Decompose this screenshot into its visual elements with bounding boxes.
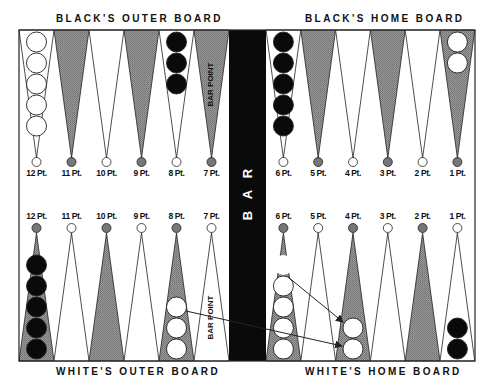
point-tip-marker [418,158,427,167]
bottom-point-label: 11 Pt. [54,211,90,221]
point-tip-marker [137,158,146,167]
white-checker[interactable] [167,297,187,317]
point-tip-marker [137,224,146,233]
title-black-outer-board: BLACK'S OUTER BOARD [56,13,223,24]
black-checker[interactable] [273,116,293,136]
top-point-label: 3 Pt. [370,168,406,178]
black-checker[interactable] [273,95,293,115]
bottom-point-label: 7 Pt. [194,211,230,221]
point-tip-marker [453,158,462,167]
bottom-point-3pt [370,233,405,361]
black-checker[interactable] [273,74,293,94]
title-black-home-board: BLACK'S HOME BOARD [305,13,464,24]
point-tip-marker [172,224,181,233]
point-tip-marker [207,158,216,167]
top-point-label: 5 Pt. [300,168,336,178]
bottom-point-label: 4 Pt. [335,211,371,221]
white-checker[interactable] [447,53,467,73]
bar-letter-r: R [240,155,255,192]
white-checker[interactable] [167,318,187,338]
top-point-label: 11 Pt. [54,168,90,178]
black-checker[interactable] [447,318,467,338]
top-point-2pt [405,30,440,158]
point-tip-marker [207,224,216,233]
bottom-point-label: 9 Pt. [124,211,160,221]
top-point-10pt [89,30,124,158]
point-tip-marker [32,224,41,233]
white-checker[interactable] [27,32,47,52]
title-white-home-board: WHITE'S HOME BOARD [305,366,462,377]
point-tip-marker [314,224,323,233]
top-point-label: 7 Pt. [194,168,230,178]
point-tip-marker [102,158,111,167]
point-tip-marker [67,158,76,167]
white-checker[interactable] [343,339,363,359]
black-checker[interactable] [27,255,47,275]
white-checker[interactable] [27,53,47,73]
black-checker[interactable] [273,32,293,52]
white-checker[interactable] [27,74,47,94]
top-point-5pt [301,30,336,158]
white-checker[interactable] [273,339,293,359]
bottom-point-5pt [301,233,336,361]
white-checker[interactable] [273,318,293,338]
bottom-point-2pt [405,233,440,361]
bottom-point-label: 10 Pt. [89,211,125,221]
bottom-point-label: 12 Pt. [19,211,55,221]
point-tip-marker [314,158,323,167]
black-checker[interactable] [167,74,187,94]
bottom-point-label: 5 Pt. [300,211,336,221]
white-checker[interactable] [27,116,47,136]
black-checker[interactable] [27,318,47,338]
top-point-label: 1 Pt. [439,168,475,178]
black-checker[interactable] [27,297,47,317]
top-point-label: 4 Pt. [335,168,371,178]
white-checker[interactable] [167,339,187,359]
point-tip-marker [67,224,76,233]
bottom-point-label: 1 Pt. [439,211,475,221]
bottom-point-label: 6 Pt. [265,211,301,221]
point-tip-marker [279,158,288,167]
black-checker[interactable] [447,339,467,359]
point-tip-marker [279,224,288,233]
top-point-label: 8 Pt. [159,168,195,178]
point-tip-marker [453,224,462,233]
black-checker[interactable] [27,276,47,296]
point-tip-marker [418,224,427,233]
black-checker[interactable] [167,53,187,73]
bottom-point-label: 8 Pt. [159,211,195,221]
black-checker[interactable] [273,53,293,73]
point-tip-marker [172,158,181,167]
white-checker[interactable] [273,297,293,317]
title-white-outer-board: WHITE'S OUTER BOARD [56,366,220,377]
bottom-point-10pt [89,233,124,361]
white-checker[interactable] [447,32,467,52]
top-point-11pt [54,30,89,158]
point-tip-marker [349,158,358,167]
black-checker[interactable] [167,32,187,52]
bottom-point-9pt [124,233,159,361]
bottom-point-label: 2 Pt. [405,211,441,221]
top-point-label: 10 Pt. [89,168,125,178]
bar-point-label-top: BAR POINT [206,63,215,107]
black-checker[interactable] [27,339,47,359]
point-tip-marker [383,158,392,167]
top-point-3pt [370,30,405,158]
white-checker[interactable] [343,318,363,338]
point-tip-marker [383,224,392,233]
point-tip-marker [32,158,41,167]
top-point-label: 12 Pt. [19,168,55,178]
top-point-9pt [124,30,159,158]
top-point-label: 9 Pt. [124,168,160,178]
bottom-point-label: 3 Pt. [370,211,406,221]
top-point-label: 6 Pt. [265,168,301,178]
moved-checker-ghost [273,255,293,275]
top-point-label: 2 Pt. [405,168,441,178]
bottom-point-11pt [54,233,89,361]
point-tip-marker [102,224,111,233]
white-checker[interactable] [27,95,47,115]
top-point-4pt [336,30,371,158]
bar-point-label-bottom: BAR POINT [206,296,215,340]
point-tip-marker [349,224,358,233]
